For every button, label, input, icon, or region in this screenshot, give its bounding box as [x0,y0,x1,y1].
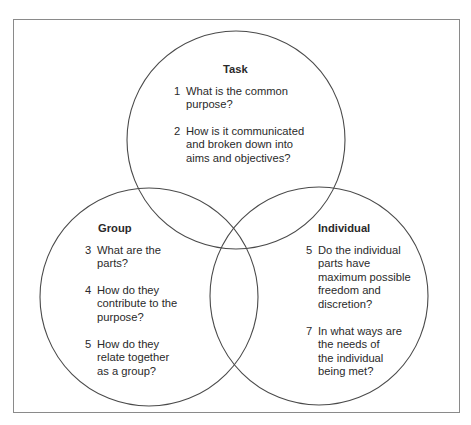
item-number: 3 [85,244,97,271]
item-number: 2 [174,125,186,166]
item-number: 4 [85,284,97,325]
task-item: 1 What is the common purpose? [174,85,304,112]
individual-block: Individual 5 Do the individual parts hav… [306,222,411,392]
item-number: 5 [306,244,318,312]
item-text: How do they contribute to the purpose? [97,284,177,325]
group-item: 3 What are the parts? [85,244,177,271]
item-number: 1 [174,85,186,112]
group-title: Group [85,222,177,236]
individual-item: 7 In what ways are the needs of the indi… [306,325,411,379]
group-block: Group 3 What are the parts? 4 How do the… [85,222,177,391]
item-text: In what ways are the needs of the indivi… [318,325,402,379]
task-block: Task 1 What is the common purpose? 2 How… [174,63,304,179]
task-item: 2 How is it communicated and broken down… [174,125,304,166]
item-text: Do the individual parts have maximum pos… [318,244,411,312]
item-number: 7 [306,325,318,379]
item-number: 5 [85,338,97,379]
item-text: What is the common purpose? [186,85,288,112]
task-title: Task [174,63,304,77]
individual-title: Individual [306,222,411,236]
item-text: What are the parts? [97,244,161,271]
individual-item: 5 Do the individual parts have maximum p… [306,244,411,312]
group-item: 5 How do they relate together as a group… [85,338,177,379]
group-item: 4 How do they contribute to the purpose? [85,284,177,325]
item-text: How is it communicated and broken down i… [186,125,304,166]
item-text: How do they relate together as a group? [97,338,169,379]
